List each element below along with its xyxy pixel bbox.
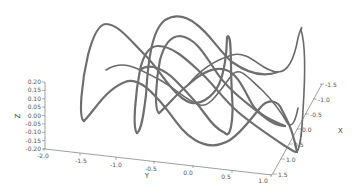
x-axis-label: X (338, 127, 343, 135)
z-tick-label: 0.20 (28, 78, 42, 85)
z-tick-label: 0.05 (28, 103, 42, 110)
z-tick-label: -0.05 (25, 120, 41, 127)
y-tick-label: -1.0 (110, 161, 122, 168)
y-tick-label: 1.0 (258, 177, 268, 184)
z-tick-label: -0.20 (25, 145, 41, 152)
x-tick-label: 0.0 (302, 126, 312, 133)
y-axis-label: Y (144, 172, 150, 180)
3d-plot: 0.20 0.15 0.10 0.05 0.00 -0.05 -0.10 -0.… (0, 0, 353, 191)
x-tick-label: -1.5 (325, 81, 337, 88)
z-tick-label: 0.00 (28, 112, 42, 119)
curve-series (81, 17, 305, 153)
x-tick-label: 1.0 (286, 156, 296, 163)
y-tick-label: 0.5 (221, 173, 231, 180)
y-tick-label: -2.0 (37, 152, 49, 159)
y-tick-label: 0.0 (183, 169, 193, 176)
z-axis: 0.20 0.15 0.10 0.05 0.00 -0.05 -0.10 -0.… (14, 78, 45, 152)
z-ticks (42, 82, 45, 149)
y-axis: -2.0 -1.5 -1.0 -0.5 0.0 0.5 1.0 Y (37, 148, 272, 184)
z-tick-label: -0.15 (25, 137, 41, 144)
x-tick-label: 1.5 (278, 171, 288, 178)
x-tick-label: -1.0 (318, 96, 330, 103)
z-tick-label: -0.10 (25, 128, 41, 135)
y-tick-label: -1.5 (75, 157, 87, 164)
x-tick-label: 0.5 (294, 141, 304, 148)
z-tick-label: 0.10 (28, 95, 42, 102)
x-tick-label: -0.5 (310, 111, 322, 118)
z-tick-label: 0.15 (28, 86, 42, 93)
x-ticks (273, 84, 324, 174)
x-axis: -1.5 -1.0 -0.5 0.0 0.5 1.0 1.5 X (272, 81, 343, 178)
z-axis-label: Z (14, 113, 22, 118)
y-tick-label: -0.5 (145, 165, 157, 172)
